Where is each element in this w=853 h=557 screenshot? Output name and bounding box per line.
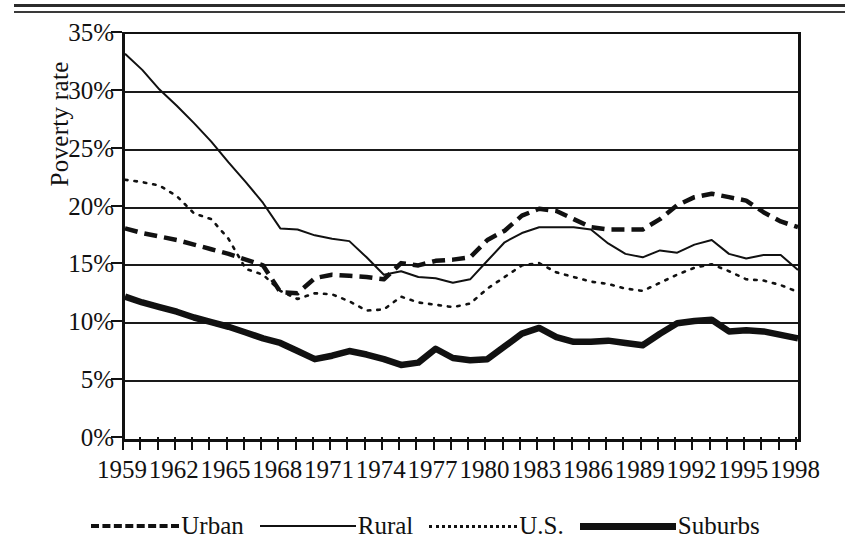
y-tick-label: 10% — [40, 309, 114, 334]
y-tick-label: 35% — [40, 20, 114, 45]
x-tick-mark — [226, 437, 228, 450]
x-tick-label: 1992 — [666, 455, 716, 485]
x-tick-mark — [484, 437, 486, 450]
x-tick-label: 1986 — [563, 455, 613, 485]
x-tick-mark — [726, 437, 728, 450]
x-tick-label: 1962 — [149, 455, 199, 485]
x-tick-mark — [364, 437, 366, 450]
x-tick-mark — [502, 437, 504, 450]
x-tick-mark — [398, 437, 400, 450]
x-tick-mark — [381, 437, 383, 450]
page-top-rule-2 — [14, 11, 845, 13]
y-tick-label: 30% — [40, 77, 114, 102]
x-tick-label: 1977 — [408, 455, 458, 485]
x-tick-mark — [691, 437, 693, 450]
x-tick-mark — [709, 437, 711, 450]
x-tick-mark — [553, 437, 555, 450]
x-tick-mark — [174, 437, 176, 450]
series-lines — [125, 34, 798, 439]
y-tick-mark — [111, 89, 122, 91]
y-tick-mark — [111, 262, 122, 264]
x-tick-mark — [208, 437, 210, 450]
y-tick-label: 25% — [40, 135, 114, 160]
y-tick-label: 20% — [40, 193, 114, 218]
x-tick-mark — [778, 437, 780, 450]
x-tick-mark — [640, 437, 642, 450]
legend-label: U.S. — [517, 512, 565, 540]
y-tick-label: 0% — [40, 425, 114, 450]
x-tick-label: 1971 — [304, 455, 354, 485]
y-tick-mark — [111, 147, 122, 149]
x-tick-mark — [312, 437, 314, 450]
x-tick-label: 1959 — [97, 455, 147, 485]
legend-item-suburbs[interactable]: Suburbs — [580, 512, 762, 540]
x-tick-mark — [450, 437, 452, 450]
plot-area — [122, 32, 801, 442]
x-tick-mark — [139, 437, 141, 450]
y-tick-label: 5% — [40, 367, 114, 392]
series-line-rural — [125, 54, 798, 283]
x-tick-mark — [415, 437, 417, 450]
x-tick-mark — [571, 437, 573, 450]
x-tick-mark — [760, 437, 762, 450]
legend-label: Suburbs — [676, 512, 762, 540]
legend-label: Urban — [179, 512, 245, 540]
legend-swatch-thin-solid-icon — [260, 525, 356, 527]
x-tick-label: 1968 — [252, 455, 302, 485]
legend-item-rural[interactable]: Rural — [260, 512, 416, 540]
chart-page: Poverty rate 0%5%10%15%20%25%30%35% 1959… — [0, 0, 853, 557]
y-tick-mark — [111, 320, 122, 322]
x-tick-mark — [346, 437, 348, 450]
x-tick-mark — [433, 437, 435, 450]
x-axis-tick-labels: 1959196219651968197119741977198019831986… — [0, 455, 853, 489]
x-tick-mark — [467, 437, 469, 450]
chart-legend: UrbanRuralU.S.Suburbs — [0, 506, 853, 546]
x-tick-label: 1974 — [356, 455, 406, 485]
legend-label: Rural — [356, 512, 416, 540]
y-tick-mark — [111, 378, 122, 380]
x-tick-label: 1965 — [201, 455, 251, 485]
legend-swatch-dotted-icon — [429, 525, 517, 528]
x-tick-mark — [743, 437, 745, 450]
x-tick-mark — [122, 437, 124, 450]
plot-inner — [125, 34, 798, 439]
legend-item-us[interactable]: U.S. — [429, 512, 565, 540]
x-tick-mark — [157, 437, 159, 450]
x-tick-label: 1995 — [718, 455, 768, 485]
x-tick-mark — [277, 437, 279, 450]
y-tick-mark — [111, 436, 122, 438]
x-tick-mark — [191, 437, 193, 450]
y-tick-mark — [111, 31, 122, 33]
legend-swatch-dashed-icon — [91, 524, 179, 528]
page-top-rule-1 — [14, 4, 845, 7]
x-tick-mark — [536, 437, 538, 450]
y-tick-mark — [111, 205, 122, 207]
x-tick-mark — [605, 437, 607, 450]
x-tick-label: 1989 — [615, 455, 665, 485]
x-tick-mark — [674, 437, 676, 450]
x-tick-mark — [260, 437, 262, 450]
x-tick-mark — [622, 437, 624, 450]
x-tick-mark — [657, 437, 659, 450]
x-tick-mark — [329, 437, 331, 450]
x-tick-mark — [295, 437, 297, 450]
series-line-suburbs — [125, 297, 798, 365]
poverty-rate-line-chart: Poverty rate 0%5%10%15%20%25%30%35% 1959… — [0, 18, 853, 518]
x-tick-mark — [588, 437, 590, 450]
x-tick-label: 1983 — [511, 455, 561, 485]
legend-swatch-thick-solid-icon — [580, 523, 676, 530]
legend-item-urban[interactable]: Urban — [91, 512, 245, 540]
x-axis-tick-marks — [122, 437, 801, 450]
x-tick-mark — [243, 437, 245, 450]
x-tick-label: 1998 — [770, 455, 820, 485]
x-tick-mark — [795, 437, 797, 450]
series-line-us — [125, 180, 798, 311]
y-axis-tick-labels: 0%5%10%15%20%25%30%35% — [36, 18, 114, 438]
x-tick-label: 1980 — [459, 455, 509, 485]
x-tick-mark — [519, 437, 521, 450]
y-tick-label: 15% — [40, 251, 114, 276]
